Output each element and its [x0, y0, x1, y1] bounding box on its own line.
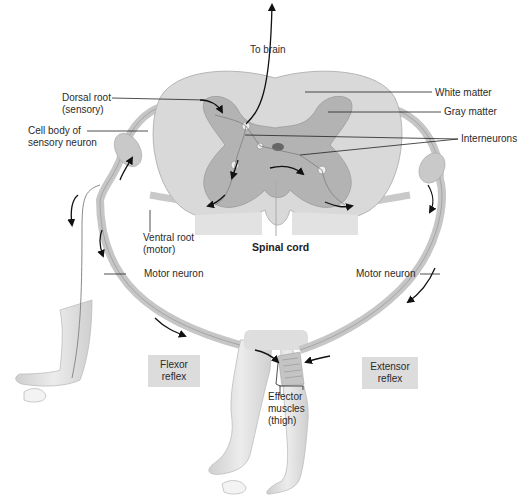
label-motor-neuron-left: Motor neuron — [144, 268, 203, 280]
label-effector-muscles: Effector muscles (thigh) — [268, 391, 305, 427]
spinal-cord-cross-section — [153, 71, 402, 236]
label-white-matter: White matter — [435, 87, 492, 99]
label-cell-body-sensory-neuron: Cell body of sensory neuron — [28, 125, 97, 149]
label-motor-neuron-right: Motor neuron — [356, 268, 415, 280]
left-foot-illustration — [16, 300, 92, 402]
label-interneurons: Interneurons — [461, 133, 517, 145]
label-spinal-cord: Spinal cord — [252, 241, 309, 253]
extensor-reflex-box: Extensor reflex — [362, 357, 418, 389]
label-gray-matter: Gray matter — [444, 106, 497, 118]
flexor-reflex-box: Flexor reflex — [148, 355, 200, 387]
label-ventral-root: Ventral root (motor) — [143, 232, 194, 256]
label-dorsal-root: Dorsal root (sensory) — [62, 92, 111, 116]
label-to-brain: To brain — [250, 44, 286, 56]
crossed-extensor-reflex-diagram: To brain Dorsal root (sensory) Cell body… — [0, 0, 529, 501]
dorsal-root-ganglion-right — [414, 148, 451, 188]
